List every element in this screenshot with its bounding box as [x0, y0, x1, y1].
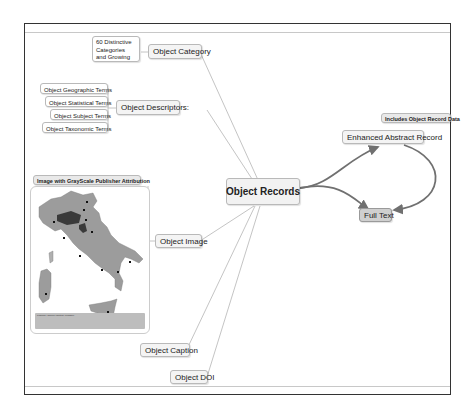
object-doi-node[interactable]: Object DOI — [170, 370, 208, 384]
descriptor-term-geographic[interactable]: Object Geographic Terms — [40, 83, 108, 94]
descriptor-term-label: Object Taxonomic Terms — [46, 126, 111, 132]
object-descriptors-node[interactable]: Object Descriptors: — [116, 100, 180, 115]
italy-map-image[interactable]: Legend / source caption (illegible) — [30, 186, 150, 334]
descriptor-term-label: Object Statistical Terms — [49, 100, 112, 106]
map-icon — [31, 187, 149, 333]
object-image-label: Object Image — [160, 237, 208, 246]
descriptor-term-taxonomic[interactable]: Object Taxonomic Terms — [42, 122, 108, 133]
enhanced-abstract-callout-label: Includes Object Record Data — [385, 116, 460, 122]
enhanced-abstract-label: Enhanced Abstract Record — [347, 133, 442, 142]
image-callout-label: Image with GrayScale Publisher Attributi… — [37, 178, 150, 184]
object-descriptors-label: Object Descriptors: — [121, 103, 189, 112]
descriptor-term-statistical[interactable]: Object Statistical Terms — [45, 96, 108, 107]
object-category-node[interactable]: Object Category — [148, 44, 202, 59]
full-text-node[interactable]: Full Text — [359, 208, 392, 222]
image-callout: Image with GrayScale Publisher Attributi… — [33, 175, 141, 185]
object-doi-label: Object DOI — [175, 373, 215, 382]
full-text-label: Full Text — [364, 211, 394, 220]
enhanced-abstract-callout: Includes Object Record Data — [381, 113, 451, 123]
object-records-label: Object Records — [226, 187, 300, 197]
enhanced-abstract-node[interactable]: Enhanced Abstract Record — [342, 130, 424, 144]
object-caption-node[interactable]: Object Caption — [140, 343, 190, 357]
object-caption-label: Object Caption — [145, 346, 198, 355]
category-note-node[interactable]: 60 Distinctive Categories and Growing — [92, 36, 140, 62]
map-caption-bar: Legend / source caption (illegible) — [35, 313, 145, 329]
descriptor-term-label: Object Geographic Terms — [44, 87, 112, 93]
descriptor-term-subject[interactable]: Object Subject Terms — [50, 109, 108, 120]
category-note-label: 60 Distinctive Categories and Growing — [96, 39, 132, 60]
object-image-node[interactable]: Object Image — [155, 234, 202, 248]
object-records-node[interactable]: Object Records — [226, 178, 300, 205]
object-category-label: Object Category — [153, 47, 211, 56]
descriptor-term-label: Object Subject Terms — [54, 113, 111, 119]
